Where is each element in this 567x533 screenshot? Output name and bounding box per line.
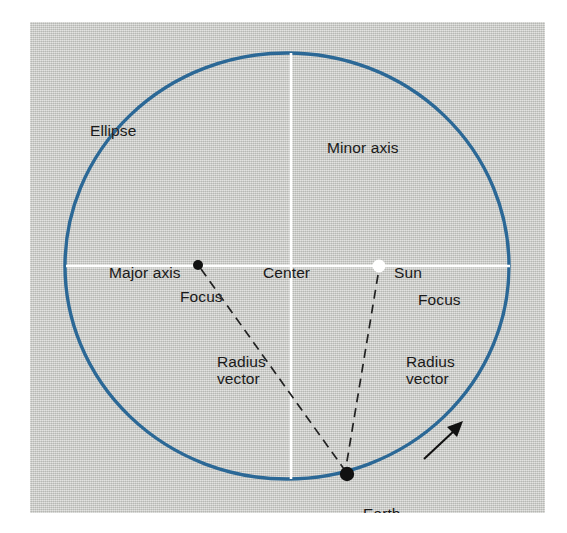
label-radius-vector-left: Radius vector bbox=[217, 353, 266, 388]
focus-point-icon bbox=[193, 260, 203, 270]
diagram-panel: Ellipse Minor axis Major axis Center Sun… bbox=[30, 22, 545, 513]
label-focus-left: Focus bbox=[180, 288, 223, 305]
label-earth: Earth bbox=[363, 505, 401, 513]
earth-point-icon bbox=[340, 467, 354, 481]
label-center: Center bbox=[263, 264, 310, 281]
label-radius-vector-right: Radius vector bbox=[406, 353, 455, 388]
orbit-diagram-figure: Ellipse Minor axis Major axis Center Sun… bbox=[0, 0, 567, 533]
label-minor-axis: Minor axis bbox=[327, 139, 399, 156]
radius-vector-right-line bbox=[346, 275, 378, 467]
orbit-direction-arrow-icon bbox=[424, 421, 463, 459]
label-sun: Sun bbox=[394, 264, 422, 281]
sun-point-icon bbox=[373, 260, 386, 273]
label-major-axis: Major axis bbox=[109, 264, 181, 281]
label-focus-right: Focus bbox=[418, 291, 461, 308]
label-ellipse: Ellipse bbox=[90, 122, 136, 139]
